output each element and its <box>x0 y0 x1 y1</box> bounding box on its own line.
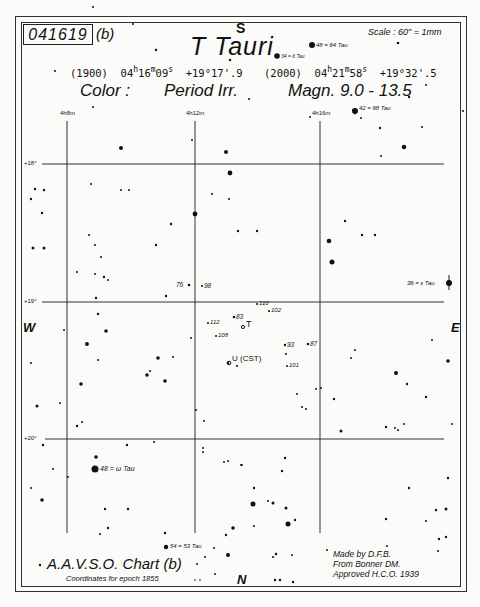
comp-108: 108 <box>218 332 228 338</box>
label-omega-tau: 48 = ω Tau <box>100 465 135 472</box>
label-64-tau: 48 = 64 Tau <box>316 42 348 48</box>
variable-u-tau: U (CST) <box>232 354 261 363</box>
comp-83: 83 <box>236 313 243 320</box>
credit-approved: Approved H.C.O. 1939 <box>333 569 419 579</box>
comp-102: 102 <box>271 307 281 313</box>
comp-101: 101 <box>289 362 299 368</box>
label-epsilon-tau: 36 = ε Tau <box>407 280 435 286</box>
comp-112: 112 <box>210 319 220 325</box>
comp-98: 98 <box>204 282 211 289</box>
credit-source: From Bonner DM. <box>333 559 419 569</box>
credit-made-by: Made by D.F.B. <box>333 549 419 559</box>
comp-93: 93 <box>287 341 294 348</box>
comp-110: 110 <box>259 300 269 306</box>
comp-87: 87 <box>310 340 317 347</box>
label-68-tau: 42 = 68 Tau <box>359 105 391 111</box>
label-delta-tau: 34 = δ Tau <box>281 53 305 59</box>
footer-chart-name: A.A.V.S.O. Chart (b) <box>47 555 182 572</box>
named-star-markers <box>92 42 453 549</box>
stars <box>30 6 464 583</box>
star-field <box>0 0 480 607</box>
variable-t-tau: T <box>246 319 252 329</box>
footer-credits: Made by D.F.B. From Bonner DM. Approved … <box>333 549 419 579</box>
comp-76: 76 <box>176 281 183 288</box>
label-53-tau: 54 = 53 Tau <box>170 543 202 549</box>
footer-epoch-note: Coordinates for epoch 1855 <box>66 574 159 583</box>
